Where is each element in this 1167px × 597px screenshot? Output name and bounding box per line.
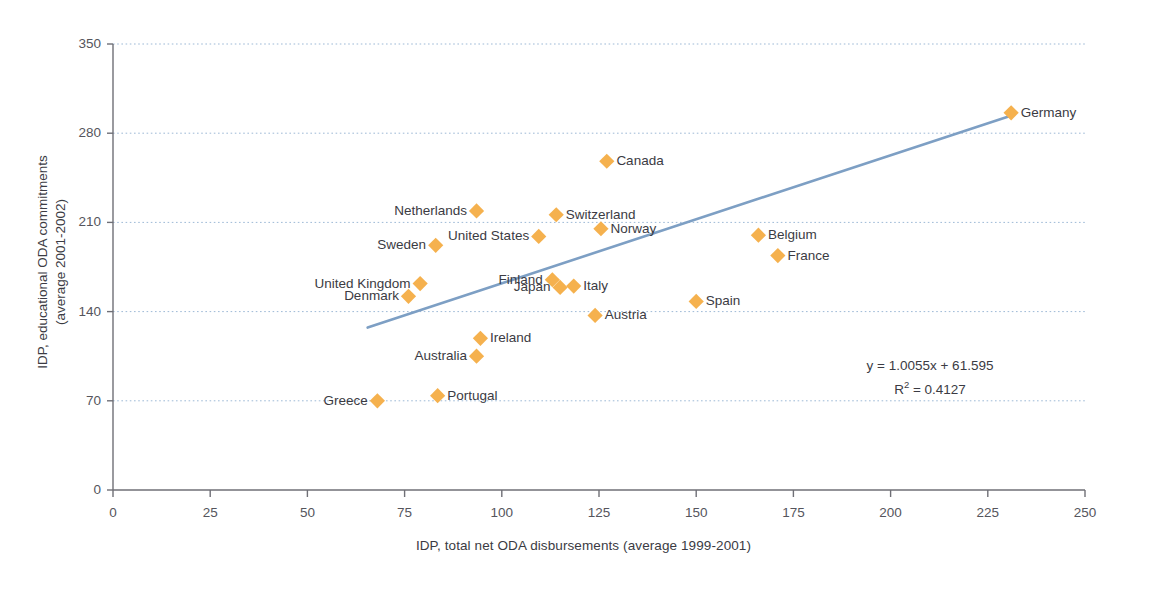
y-axis-tick-label: 210 <box>61 214 101 229</box>
x-axis-tick-label: 225 <box>968 505 1008 520</box>
data-point-label: Australia <box>414 349 467 363</box>
data-point-label: France <box>787 249 829 263</box>
data-point-marker[interactable] <box>370 393 385 408</box>
data-point-label: Ireland <box>490 331 531 345</box>
data-point-label: Germany <box>1021 106 1077 120</box>
trendline <box>368 115 1013 328</box>
data-point-label: Portugal <box>447 389 497 403</box>
trendline-annotation: y = 1.0055x + 61.595 R2 = 0.4127 <box>822 356 1038 399</box>
data-point-marker[interactable] <box>469 349 484 364</box>
data-point-marker[interactable] <box>770 248 785 263</box>
data-point-label: Italy <box>583 279 608 293</box>
x-axis-tick-label: 125 <box>579 505 619 520</box>
trendline-equation: y = 1.0055x + 61.595 <box>822 356 1038 375</box>
data-point-label: Switzerland <box>566 208 636 222</box>
y-axis-tick-label: 140 <box>61 304 101 319</box>
x-axis-tick-label: 50 <box>287 505 327 520</box>
data-point-marker[interactable] <box>473 331 488 346</box>
data-point-label: Denmark <box>344 289 399 303</box>
data-point-marker[interactable] <box>469 203 484 218</box>
data-point-label: Sweden <box>377 238 426 252</box>
data-point-marker[interactable] <box>751 228 766 243</box>
y-axis-tick-label: 280 <box>61 125 101 140</box>
data-point-marker[interactable] <box>566 279 581 294</box>
data-point-label: Spain <box>706 294 741 308</box>
y-axis-tick-label: 70 <box>61 393 101 408</box>
data-point-label: Austria <box>605 308 647 322</box>
data-point-label: Norway <box>611 222 657 236</box>
data-point-marker[interactable] <box>531 229 546 244</box>
data-point-label: United States <box>448 229 529 243</box>
x-axis-tick-label: 0 <box>93 505 133 520</box>
x-axis-tick-label: 175 <box>773 505 813 520</box>
x-axis-tick-label: 75 <box>385 505 425 520</box>
trendline-r-squared: R2 = 0.4127 <box>822 375 1038 399</box>
y-axis-tick-label: 0 <box>61 482 101 497</box>
scatter-chart: IDP, educational ODA commitments (averag… <box>0 0 1167 597</box>
y-axis-title-line-2: (average 2001-2002) <box>52 112 70 412</box>
data-point-marker[interactable] <box>401 289 416 304</box>
data-point-marker[interactable] <box>428 238 443 253</box>
x-axis-tick-label: 200 <box>871 505 911 520</box>
data-point-marker[interactable] <box>413 276 428 291</box>
data-point-marker[interactable] <box>593 221 608 236</box>
data-point-marker[interactable] <box>689 294 704 309</box>
x-axis-tick-label: 250 <box>1065 505 1105 520</box>
x-axis-title: IDP, total net ODA disbursements (averag… <box>0 538 1167 553</box>
data-point-label: Netherlands <box>394 204 467 218</box>
data-point-label: Canada <box>616 154 663 168</box>
data-point-marker[interactable] <box>549 207 564 222</box>
y-axis-tick-label: 350 <box>61 36 101 51</box>
x-axis-tick-label: 25 <box>190 505 230 520</box>
data-point-label: Belgium <box>768 228 817 242</box>
data-point-marker[interactable] <box>588 308 603 323</box>
y-axis-title-line-1: IDP, educational ODA commitments <box>34 112 52 412</box>
data-point-label: Greece <box>324 394 368 408</box>
x-axis-tick-label: 100 <box>482 505 522 520</box>
r-squared-value: = 0.4127 <box>909 382 966 397</box>
data-point-marker[interactable] <box>599 154 614 169</box>
data-point-label: Japan <box>514 280 551 294</box>
x-axis-tick-label: 150 <box>676 505 716 520</box>
y-axis-title: IDP, educational ODA commitments (averag… <box>34 112 74 412</box>
